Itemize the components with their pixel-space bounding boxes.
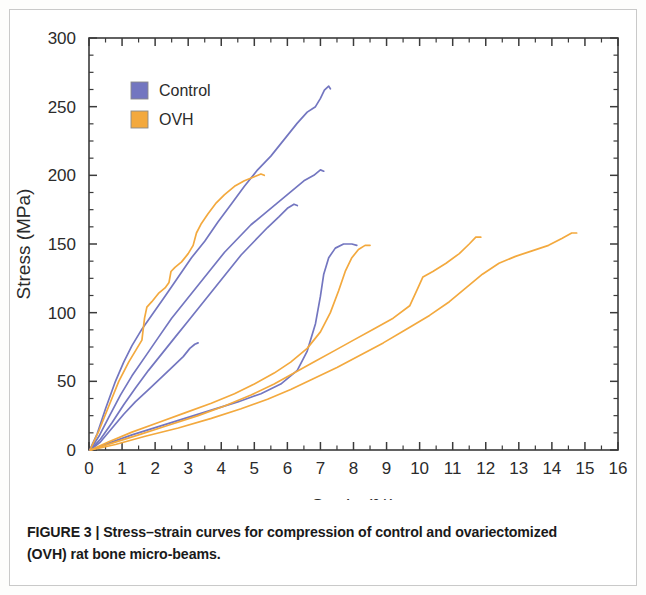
x-tick-label: 12 bbox=[476, 459, 495, 478]
caption-text: Stress–strain curves for compression of … bbox=[27, 524, 557, 562]
data-curve-control-1 bbox=[90, 86, 331, 450]
x-tick-label: 4 bbox=[217, 459, 226, 478]
x-tick-label: 11 bbox=[444, 459, 462, 478]
y-tick-label: 100 bbox=[48, 304, 76, 323]
legend-swatch-control bbox=[131, 82, 148, 99]
y-tick-label: 0 bbox=[67, 441, 76, 460]
x-tick-label: 14 bbox=[542, 459, 561, 478]
x-tick-label: 16 bbox=[609, 459, 628, 478]
y-axis-title: Stress (MPa) bbox=[13, 189, 34, 300]
y-tick-label: 300 bbox=[48, 29, 76, 48]
legend-swatch-ovh bbox=[131, 111, 148, 128]
x-tick-label: 0 bbox=[84, 459, 93, 478]
stress-strain-chart: 0123456789101112131415160501001502002503… bbox=[0, 0, 646, 500]
data-curve-ovh-7 bbox=[91, 245, 370, 450]
data-curve-ovh-9 bbox=[91, 233, 577, 450]
x-tick-label: 8 bbox=[349, 459, 358, 478]
figure-container: 0123456789101112131415160501001502002503… bbox=[0, 0, 646, 595]
x-tick-label: 10 bbox=[410, 459, 429, 478]
x-tick-label: 15 bbox=[575, 459, 594, 478]
chart-plot-area: 0123456789101112131415160501001502002503… bbox=[0, 0, 646, 500]
x-tick-label: 7 bbox=[316, 459, 325, 478]
x-tick-label: 9 bbox=[382, 459, 391, 478]
y-tick-label: 250 bbox=[48, 98, 76, 117]
caption-tail: . bbox=[217, 546, 221, 562]
caption-label: FIGURE 3 | bbox=[27, 524, 99, 540]
legend-label-ovh: OVH bbox=[159, 111, 194, 128]
data-curve-ovh-8 bbox=[91, 237, 481, 450]
x-tick-label: 3 bbox=[183, 459, 192, 478]
x-axis-title: Strain (%) bbox=[311, 495, 395, 500]
y-tick-label: 50 bbox=[57, 372, 76, 391]
y-tick-label: 200 bbox=[48, 166, 76, 185]
x-tick-label: 6 bbox=[283, 459, 292, 478]
x-tick-label: 1 bbox=[117, 459, 126, 478]
x-tick-label: 13 bbox=[509, 459, 528, 478]
legend-label-control: Control bbox=[159, 82, 211, 99]
x-tick-label: 2 bbox=[150, 459, 159, 478]
figure-caption: FIGURE 3 | Stress–strain curves for comp… bbox=[27, 522, 597, 565]
x-tick-label: 5 bbox=[250, 459, 259, 478]
data-curve-control-2 bbox=[90, 170, 324, 450]
y-tick-label: 150 bbox=[48, 235, 76, 254]
